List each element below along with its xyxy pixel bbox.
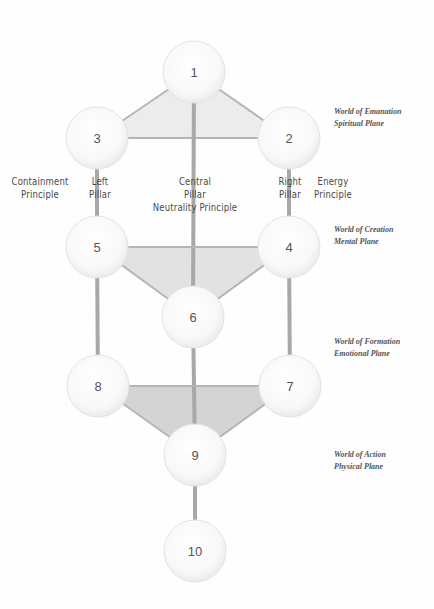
world-title: World of Formation bbox=[334, 336, 400, 348]
label-line: Pillar bbox=[83, 188, 117, 201]
world-emanation-label: World of Emanation Spiritual Plane bbox=[334, 106, 401, 130]
world-plane: Spiritual Plane bbox=[334, 118, 401, 130]
tree-of-life-diagram: 12345678910 Containment Principle Left P… bbox=[0, 0, 434, 609]
node-number: 5 bbox=[93, 240, 100, 255]
label-line: Pillar bbox=[150, 188, 240, 201]
sephirah-node-5: 5 bbox=[66, 216, 128, 278]
world-plane: Physical Plane bbox=[334, 461, 386, 473]
label-line: Central bbox=[150, 175, 240, 188]
right-pillar-label: Right Pillar bbox=[273, 175, 307, 201]
diagram-svg: 12345678910 bbox=[0, 0, 434, 609]
sephirah-node-8: 8 bbox=[67, 355, 129, 417]
node-number: 3 bbox=[93, 131, 100, 146]
world-action-label: World of Action Physical Plane bbox=[334, 449, 386, 473]
sephirah-node-6: 6 bbox=[162, 286, 224, 348]
label-line: Containment bbox=[6, 175, 74, 188]
sephirah-node-3: 3 bbox=[66, 107, 128, 169]
world-title: World of Emanation bbox=[334, 106, 401, 118]
sephirah-node-4: 4 bbox=[258, 216, 320, 278]
label-line: Principle bbox=[308, 188, 359, 201]
containment-principle-label: Containment Principle bbox=[6, 175, 74, 201]
sephirah-node-10: 10 bbox=[164, 520, 226, 582]
sephirah-node-1: 1 bbox=[163, 41, 225, 103]
label-line: Principle bbox=[6, 188, 74, 201]
node-number: 10 bbox=[188, 544, 202, 559]
node-number: 2 bbox=[285, 131, 292, 146]
sephirah-node-2: 2 bbox=[258, 107, 320, 169]
node-number: 7 bbox=[286, 379, 293, 394]
central-pillar-label: Central Pillar Neutrality Principle bbox=[150, 175, 240, 214]
world-plane: Mental Plane bbox=[334, 236, 393, 248]
label-line: Right bbox=[273, 175, 307, 188]
label-line: Left bbox=[83, 175, 117, 188]
node-number: 1 bbox=[190, 65, 197, 80]
left-pillar-label: Left Pillar bbox=[83, 175, 117, 201]
node-number: 9 bbox=[191, 448, 198, 463]
world-title: World of Action bbox=[334, 449, 386, 461]
world-title: World of Creation bbox=[334, 224, 393, 236]
world-plane: Emotional Plane bbox=[334, 348, 400, 360]
node-number: 4 bbox=[285, 240, 292, 255]
label-line: Pillar bbox=[273, 188, 307, 201]
energy-principle-label: Energy Principle bbox=[308, 175, 359, 201]
world-creation-label: World of Creation Mental Plane bbox=[334, 224, 393, 248]
sephirah-node-9: 9 bbox=[164, 424, 226, 486]
node-number: 8 bbox=[94, 379, 101, 394]
label-line: Energy bbox=[308, 175, 359, 188]
sephirah-node-7: 7 bbox=[259, 355, 321, 417]
node-number: 6 bbox=[189, 310, 196, 325]
world-formation-label: World of Formation Emotional Plane bbox=[334, 336, 400, 360]
label-line: Neutrality Principle bbox=[150, 201, 240, 214]
